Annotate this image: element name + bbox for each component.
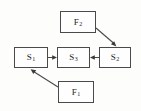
node-f2-label: F2 (74, 18, 83, 27)
edge-f2-to-s2-line (96, 28, 114, 44)
edge-s1-to-s3 (48, 55, 57, 59)
node-s2-label: S2 (111, 53, 120, 62)
edge-f2-to-s2 (96, 28, 116, 47)
edge-s2-to-s3-arrowhead (90, 55, 95, 59)
node-s2[interactable]: S2 (99, 47, 131, 68)
node-f1-label: F1 (72, 88, 81, 97)
node-s3-label: S3 (69, 53, 78, 62)
node-s1[interactable]: S1 (14, 47, 48, 68)
diagram-canvas: S1 S3 S2 F2 F1 (0, 0, 141, 111)
edge-f1-to-s1 (31, 69, 58, 87)
node-s1-label: S1 (27, 53, 36, 62)
edge-f1-to-s1-line (34, 72, 59, 88)
node-s3[interactable]: S3 (57, 47, 90, 68)
edge-s2-to-s3 (90, 55, 99, 59)
node-f1[interactable]: F1 (58, 81, 94, 103)
node-f2[interactable]: F2 (60, 11, 96, 33)
